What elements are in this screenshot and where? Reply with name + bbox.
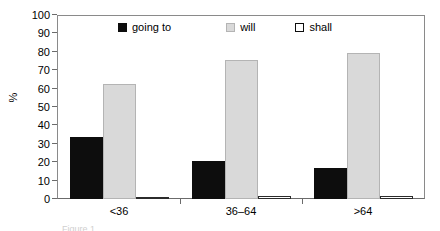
legend-swatch-icon <box>118 23 127 32</box>
legend: going to will shall <box>118 22 332 33</box>
y-tick: 10 <box>24 175 57 187</box>
x-tick-mark <box>180 199 181 204</box>
x-category-label: >64 <box>302 205 424 218</box>
legend-swatch-icon <box>226 23 235 32</box>
bar-group <box>180 16 302 199</box>
y-tick-label: 40 <box>38 119 50 131</box>
bar-going-to <box>70 137 103 199</box>
y-tick-label: 20 <box>38 156 50 168</box>
legend-entry-shall: shall <box>295 22 332 33</box>
y-tick: 0 <box>24 193 57 205</box>
figure-caption: Figure 1 <box>62 224 95 231</box>
y-axis-title: % <box>8 87 19 109</box>
y-tick: 90 <box>24 27 57 39</box>
legend-entry-will: will <box>226 22 255 33</box>
legend-label: going to <box>132 22 171 33</box>
bars-layer <box>58 16 424 199</box>
bar-group <box>58 16 180 199</box>
legend-swatch-icon <box>295 23 304 32</box>
legend-label: shall <box>309 22 332 33</box>
x-tick-mark <box>302 199 303 204</box>
y-tick: 60 <box>24 83 57 95</box>
y-tick-label: 70 <box>38 64 50 76</box>
y-tick-label: 0 <box>44 193 50 205</box>
y-tick-label: 50 <box>38 101 50 113</box>
y-tick-label: 100 <box>32 9 50 21</box>
legend-label: will <box>240 22 255 33</box>
y-tick: 40 <box>24 119 57 131</box>
y-tick: 80 <box>24 46 57 58</box>
bar-will <box>347 53 380 199</box>
y-tick: 20 <box>24 156 57 168</box>
y-tick-label: 80 <box>38 46 50 58</box>
y-tick: 30 <box>24 138 57 150</box>
x-category-label: 36–64 <box>180 205 302 218</box>
bar-will <box>225 60 258 199</box>
y-tick: 100 <box>24 9 57 21</box>
y-tick-label: 60 <box>38 83 50 95</box>
y-tick-label: 30 <box>38 138 50 150</box>
bar-group <box>302 16 424 199</box>
legend-entry-going-to: going to <box>118 22 171 33</box>
y-tick-label: 90 <box>38 27 50 39</box>
y-tick: 50 <box>24 101 57 113</box>
bar-chart: % 100 90 80 70 60 50 40 <box>0 0 440 231</box>
bar-shall <box>258 196 291 199</box>
bar-will <box>103 84 136 199</box>
bar-going-to <box>314 168 347 199</box>
bar-shall <box>136 197 169 199</box>
y-tick-label: 10 <box>38 175 50 187</box>
bar-shall <box>380 196 413 199</box>
bar-going-to <box>192 161 225 199</box>
x-category-label: <36 <box>58 205 180 218</box>
y-tick: 70 <box>24 64 57 76</box>
